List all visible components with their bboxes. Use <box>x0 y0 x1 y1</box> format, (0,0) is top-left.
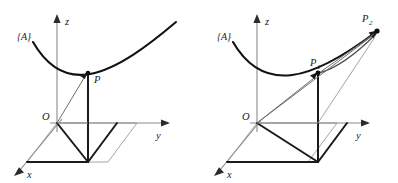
right-origin-label: O <box>242 111 250 122</box>
left-frame-label: {A} <box>17 31 31 42</box>
left-point-P-dot <box>86 71 91 76</box>
left-curve <box>33 22 176 75</box>
left-origin-label: O <box>42 111 50 122</box>
left-base-plane <box>27 123 137 162</box>
svg-text:1: 1 <box>317 63 321 71</box>
left-base-edge-o-to-foot <box>57 123 88 162</box>
left-x-axis-arrowhead <box>14 167 24 176</box>
right-point-P1-dot <box>316 71 321 76</box>
right-y-axis-label: y <box>355 130 361 141</box>
left-z-axis-label: z <box>64 16 69 27</box>
right-x-axis-arrowhead <box>214 167 224 176</box>
right-z-axis-arrowhead <box>253 14 260 23</box>
right-segment-p1-p2 <box>319 34 374 73</box>
right-x-axis-label: x <box>226 169 232 180</box>
right-point-P2-label: P 2 <box>361 13 373 27</box>
right-helper-p2-drop <box>318 37 375 123</box>
right-base-plane <box>227 123 337 162</box>
right-base-edge-o-to-foot <box>257 123 318 162</box>
left-position-vector <box>57 78 84 123</box>
svg-text:2: 2 <box>369 19 373 27</box>
figure-root: z y x O <box>0 0 398 183</box>
right-frame-label: {A} <box>217 31 231 42</box>
right-position-vector-p2 <box>257 36 372 123</box>
left-point-P-label: P <box>93 74 101 85</box>
right-panel-group: z y x O <box>214 13 380 180</box>
left-y-axis-label: y <box>155 130 161 141</box>
right-z-axis-label: z <box>264 16 269 27</box>
left-y-axis-arrowhead <box>161 119 170 126</box>
right-point-P2-dot <box>374 28 379 33</box>
svg-text:P: P <box>361 13 369 24</box>
left-z-axis-arrowhead <box>53 14 60 23</box>
left-x-axis-label: x <box>26 169 32 180</box>
svg-text:P: P <box>309 57 317 68</box>
left-panel-group: z y x O <box>14 14 176 180</box>
left-panel-diagram: z y x O <box>0 0 398 183</box>
right-y-axis-arrowhead <box>361 119 370 126</box>
